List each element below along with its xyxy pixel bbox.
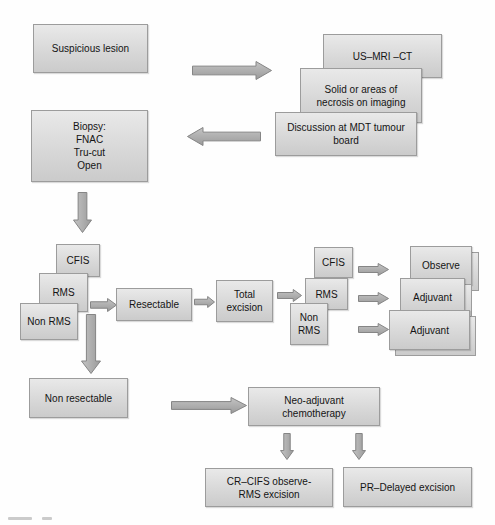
flowchart-canvas: Suspicious lesion US–MRI –CT Solid or ar…	[0, 0, 495, 525]
node-pr-delayed-excision: PR–Delayed excision	[343, 467, 472, 507]
node-cr-cifs-observe: CR–CIFS observe- RMS excision	[205, 468, 333, 507]
node-resectable: Resectable	[116, 288, 192, 321]
arrow-mdt-to-biopsy-icon	[187, 127, 261, 146]
arrow-biopsy-to-histology-icon	[73, 192, 92, 233]
node-non-rms-left: Non RMS	[20, 303, 78, 340]
arrow-non-rms-to-adjuvant-icon	[358, 322, 389, 335]
cropped-caption-fragment	[42, 517, 52, 520]
cropped-caption-fragment	[8, 517, 32, 520]
arrow-excision-to-histology-icon	[277, 288, 302, 301]
node-non-resectable: Non resectable	[29, 378, 128, 418]
node-suspicious-lesion: Suspicious lesion	[33, 24, 148, 73]
arrow-chemo-to-pr-icon	[352, 433, 366, 460]
arrow-lesion-to-imaging-icon	[192, 61, 272, 80]
node-biopsy: Biopsy: FNAC Tru-cut Open	[31, 110, 148, 182]
arrow-histology-to-non-resectable-icon	[81, 314, 101, 374]
node-mdt-tumour-board: Discussion at MDT tumour board	[275, 112, 417, 156]
node-adjuvant-non-rms: Adjuvant	[389, 310, 470, 350]
arrow-non-resectable-to-chemo-icon	[171, 397, 247, 414]
node-neo-adjuvant-chemotherapy: Neo-adjuvant chemotherapy	[248, 387, 380, 426]
node-non-rms-right: Non RMS	[290, 303, 328, 345]
arrow-cfis-to-observe-icon	[358, 262, 389, 275]
arrow-rms-to-adjuvant-icon	[358, 291, 389, 304]
arrow-resectable-to-excision-icon	[194, 294, 215, 306]
node-cfis-right: CFIS	[314, 247, 353, 278]
arrow-chemo-to-cr-icon	[280, 433, 294, 460]
node-total-excision: Total excision	[216, 280, 273, 322]
arrow-histology-to-resectable-icon	[90, 298, 117, 312]
